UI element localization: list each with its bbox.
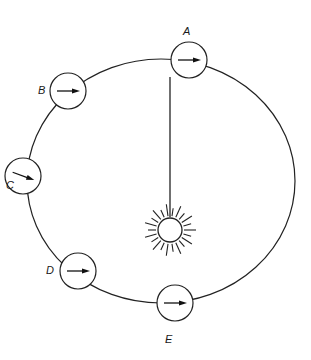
position-label-a: A (183, 26, 190, 37)
position-label-c: C (6, 180, 14, 191)
position-d (60, 253, 96, 289)
position-a (171, 42, 207, 78)
position-e (157, 285, 193, 321)
position-label-b: B (38, 85, 45, 96)
position-label-d: D (46, 265, 54, 276)
orbit-diagram: ABCDE (0, 0, 311, 360)
position-b (50, 73, 86, 109)
orbit-positions (5, 42, 207, 321)
position-label-e: E (165, 334, 172, 345)
diagram-canvas (0, 0, 311, 360)
